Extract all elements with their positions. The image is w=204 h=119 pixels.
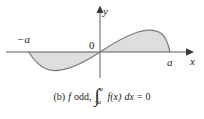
left-endpoint-label: −a	[17, 34, 30, 45]
figure-caption: (b)fodd, a ∫ −a f(x)dx=0	[0, 88, 204, 106]
caption-function-symbol: f	[68, 92, 71, 102]
right-endpoint-label: a	[167, 57, 173, 68]
y-axis-label: y	[103, 6, 108, 17]
origin-label: 0	[89, 40, 95, 51]
caption-differential: dx	[124, 92, 133, 102]
shaded-region-left-lobe	[29, 52, 101, 71]
x-axis-label: x	[190, 56, 195, 67]
integral-expression: a ∫ −a	[93, 88, 106, 106]
caption-property-text: odd,	[74, 92, 92, 102]
caption-equals-sign: =	[137, 92, 143, 102]
caption-integrand: f(x)	[107, 92, 121, 102]
odd-function-figure: y x 0 −a a (b)fodd, a ∫ −a f(x)dx=0	[0, 0, 204, 119]
caption-part-label: (b)	[54, 92, 66, 102]
integral-lower-limit: −a	[93, 99, 101, 106]
caption-result-value: 0	[145, 92, 150, 102]
